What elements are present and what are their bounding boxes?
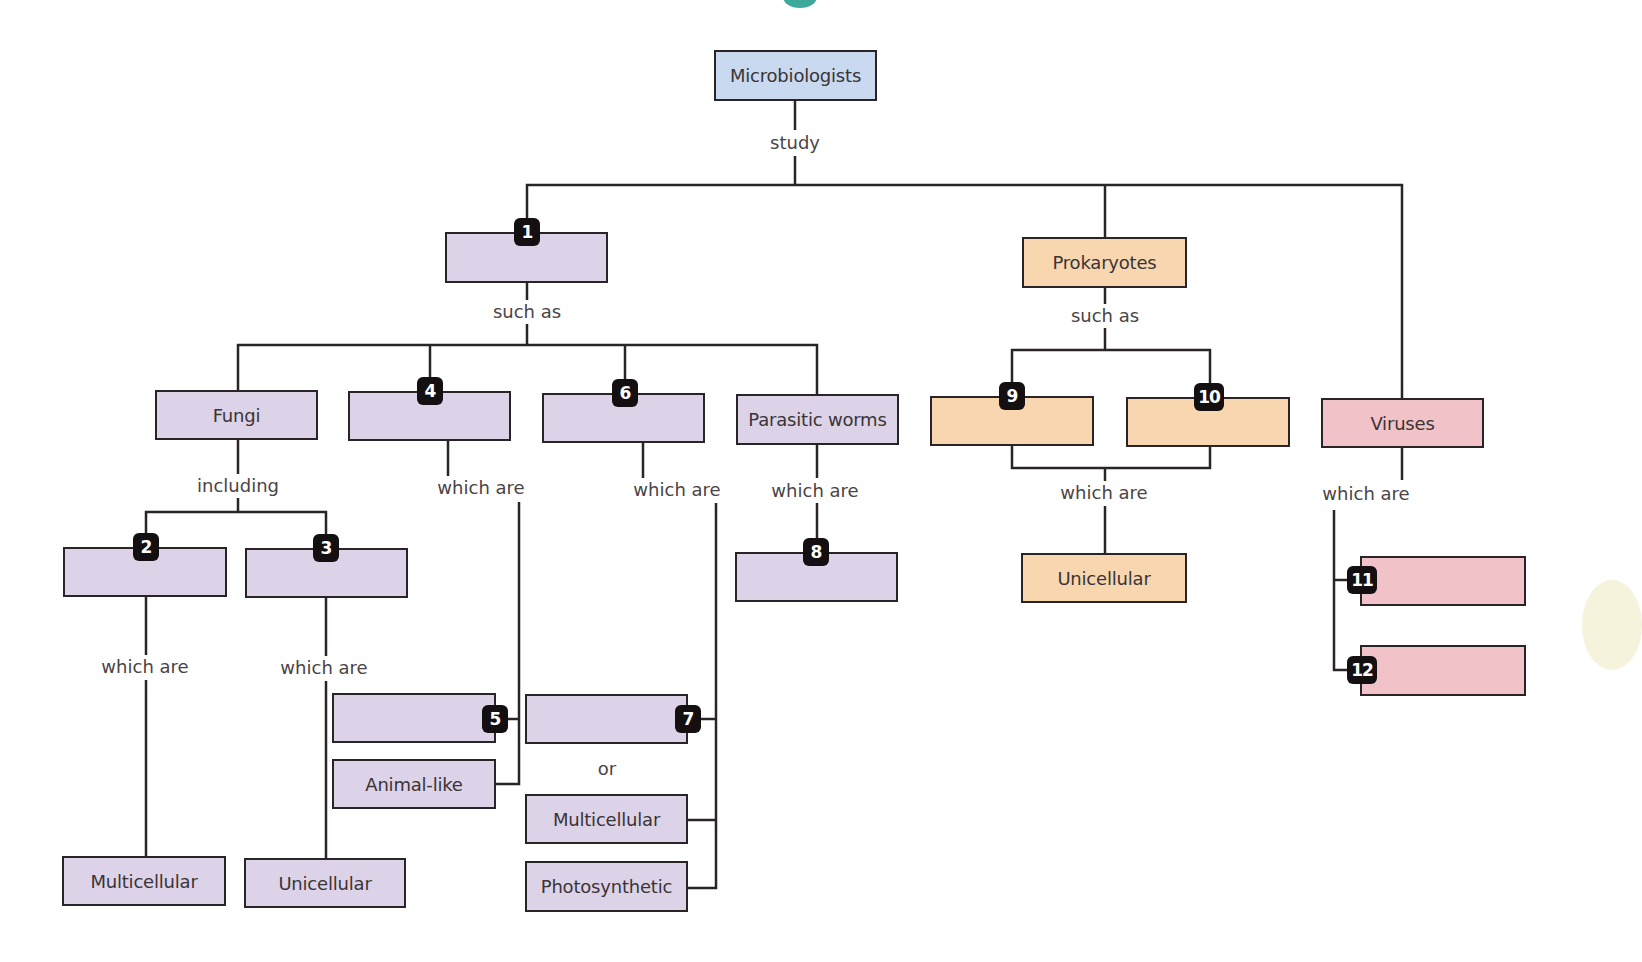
label-including: including <box>193 474 283 498</box>
node-fungi: Fungi <box>155 390 318 440</box>
node-viruses: Viruses <box>1321 398 1484 448</box>
number-badge-5: 5 <box>482 705 508 733</box>
number-badge-6: 6 <box>612 379 638 407</box>
number-badge-7: 7 <box>675 705 701 733</box>
node-parasitic-worms: Parasitic worms <box>736 394 899 445</box>
blank-box-7[interactable] <box>525 694 688 744</box>
blank-box-11[interactable] <box>1360 556 1526 606</box>
label-which-are-4: which are <box>433 476 528 500</box>
node-prokaryotes: Prokaryotes <box>1022 237 1187 288</box>
number-badge-12: 12 <box>1347 656 1377 684</box>
label-which-are-viruses: which are <box>1318 482 1413 506</box>
number-badge-2: 2 <box>133 533 159 561</box>
number-badge-9: 9 <box>999 382 1025 410</box>
label-or: or <box>594 757 620 781</box>
label-which-are-prokaryotes: which are <box>1056 481 1151 505</box>
number-badge-10: 10 <box>1194 383 1224 411</box>
label-which-are-worms: which are <box>767 479 862 503</box>
node-microbiologists: Microbiologists <box>714 50 877 101</box>
number-badge-4: 4 <box>417 377 443 405</box>
label-which-are-2: which are <box>97 655 192 679</box>
label-such-as-prokaryotes: such as <box>1067 304 1143 328</box>
node-fungi-unicellular: Unicellular <box>244 858 406 908</box>
number-badge-11: 11 <box>1347 566 1377 594</box>
node-prokaryote-unicellular: Unicellular <box>1021 553 1187 603</box>
node-photosynthetic: Photosynthetic <box>525 861 688 912</box>
blank-box-12[interactable] <box>1360 645 1526 696</box>
label-which-are-3: which are <box>276 656 371 680</box>
number-badge-1: 1 <box>514 218 540 246</box>
label-such-as-eukaryotes: such as <box>489 300 565 324</box>
blank-box-5[interactable] <box>332 693 496 743</box>
number-badge-8: 8 <box>803 538 829 566</box>
number-badge-3: 3 <box>313 534 339 562</box>
node-fungi-multicellular: Multicellular <box>62 856 226 906</box>
node-animal-like: Animal-like <box>332 759 496 809</box>
label-study: study <box>766 131 824 155</box>
node-multicellular-6: Multicellular <box>525 794 688 844</box>
label-which-are-6: which are <box>629 478 724 502</box>
